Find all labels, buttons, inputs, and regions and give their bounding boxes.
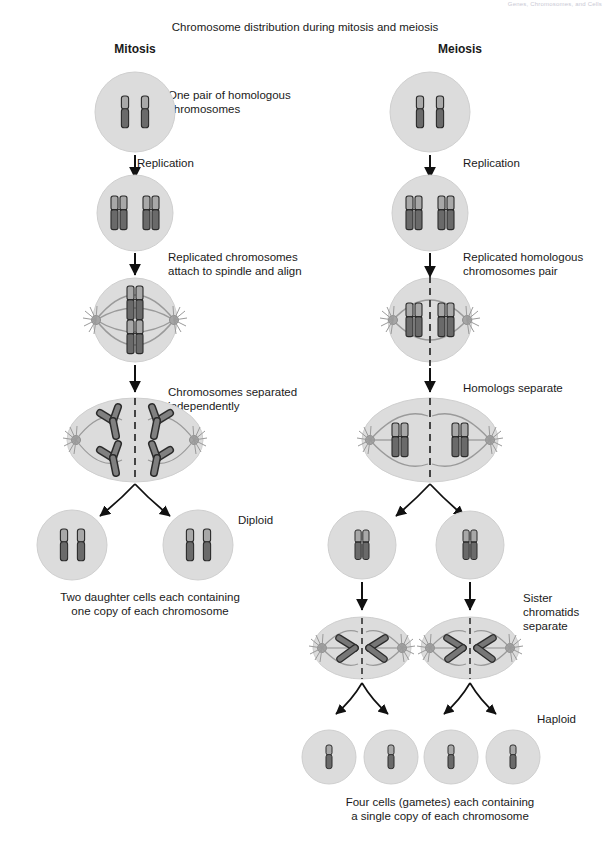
cell-gamete-2 — [364, 730, 418, 784]
cell-meiosis-anaphase2-right — [417, 617, 523, 679]
cell-meiosis-anaphase2-left — [309, 617, 415, 679]
figure-canvas: Genes, Chromosomes, and Cells Chromosome… — [0, 0, 610, 841]
cell-mitosis-parent — [95, 72, 175, 152]
arrow-gamete-4 — [470, 683, 496, 714]
cell-meiosis-anaphase1 — [357, 398, 503, 482]
arrow-mitosis-daughter-left — [100, 484, 135, 516]
arrow-meiosis-secondary-right — [430, 484, 464, 516]
cell-meiosis-secondary-right — [436, 511, 504, 579]
cell-mitosis-daughter-right — [163, 510, 233, 580]
diagram-graphics — [0, 0, 610, 841]
arrow-gamete-2 — [362, 683, 388, 714]
cell-gamete-1 — [302, 730, 356, 784]
cell-mitosis-replicated — [97, 175, 173, 251]
cell-mitosis-daughter-left — [37, 510, 107, 580]
cell-mitosis-anaphase — [63, 398, 207, 482]
arrow-gamete-1 — [336, 683, 362, 714]
cell-meiosis-metaphase1 — [380, 276, 480, 366]
cell-gamete-3 — [424, 730, 478, 784]
arrow-gamete-3 — [444, 683, 470, 714]
cell-gamete-4 — [486, 730, 540, 784]
arrow-mitosis-daughter-right — [135, 484, 170, 516]
cell-meiosis-secondary-left — [328, 511, 396, 579]
cell-mitosis-metaphase — [83, 278, 187, 362]
cell-meiosis-replicated — [392, 175, 468, 251]
cell-meiosis-parent — [390, 72, 470, 152]
arrow-meiosis-secondary-left — [396, 484, 430, 516]
